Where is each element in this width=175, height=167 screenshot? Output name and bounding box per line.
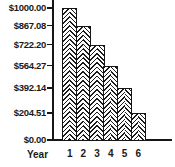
x-axis-title: Year xyxy=(20,149,55,161)
bar-hatch-left xyxy=(63,9,70,140)
y-tick-label: $722.20 xyxy=(0,39,46,51)
y-axis-line xyxy=(52,0,54,140)
y-tick-mark xyxy=(47,7,54,9)
bar-hatch-left xyxy=(104,67,111,140)
y-tick-mark xyxy=(47,44,54,46)
y-tick-label: $204.51 xyxy=(0,107,46,119)
y-tick-mark xyxy=(47,25,54,27)
y-tick-label: $392.14 xyxy=(0,82,46,94)
x-tick-label-6: 6 xyxy=(131,148,146,160)
bar-hatch-left xyxy=(132,114,139,140)
y-tick-label: $0.00 xyxy=(0,134,46,146)
bar-hatch-right xyxy=(138,114,145,140)
bar-hatch-left xyxy=(118,89,125,140)
bar-hatch-left xyxy=(90,46,97,140)
bar-hatch-left xyxy=(77,27,84,140)
y-tick-label: $1000.00 xyxy=(0,2,46,14)
y-tick-mark xyxy=(47,139,54,141)
y-tick-mark xyxy=(47,87,54,89)
y-tick-label: $564.27 xyxy=(0,60,46,72)
y-tick-mark xyxy=(47,112,54,114)
bar-chart: $1000.00$867.08$722.20$564.27$392.14$204… xyxy=(0,0,175,167)
y-tick-label: $867.08 xyxy=(0,20,46,32)
bar-year-6 xyxy=(131,113,146,141)
y-tick-mark xyxy=(47,65,54,67)
